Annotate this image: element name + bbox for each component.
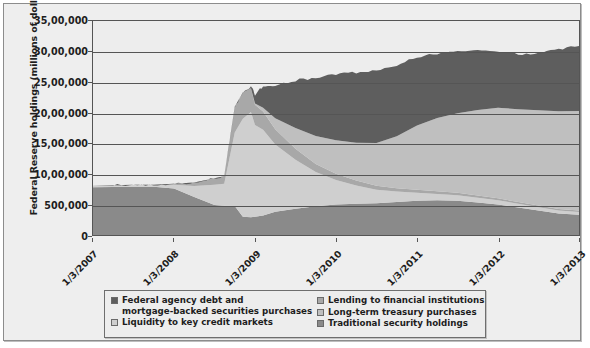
y-axis-tick-mark [88, 51, 92, 52]
y-axis-tick-mark [88, 174, 92, 175]
x-axis-tick-label: 1/3/2007 [0, 248, 100, 348]
grid-line [93, 175, 579, 176]
grid-line [93, 83, 579, 84]
legend-item-label-line2: mortgage-backed securities purchases [122, 306, 312, 317]
legend-item-label: Liquidity to key credit markets [122, 317, 273, 328]
legend-item-label: Traditional security holdings [328, 318, 468, 329]
x-axis-tick-mark [336, 238, 337, 242]
grid-line [93, 52, 579, 53]
legend-item-traditional-security-holdings[interactable]: Traditional security holdings [317, 318, 487, 329]
legend-item-long-term-treasury-purchases[interactable]: Long-term treasury purchases [317, 307, 487, 318]
legend-swatch-icon [317, 320, 324, 327]
x-axis-tick-mark [579, 238, 580, 242]
legend-swatch-icon [317, 297, 324, 304]
y-axis-tick-mark [88, 236, 92, 237]
x-axis-tick-mark [499, 238, 500, 242]
plot-area [92, 20, 580, 236]
legend-item-label: Lending to financial institutions [328, 295, 484, 306]
legend-item-federal-agency-debt-mbs[interactable]: Federal agency debt andmortgage-backed s… [111, 295, 317, 316]
chart-legend: Federal agency debt andmortgage-backed s… [104, 290, 486, 338]
legend-item-label: Federal agency debt andmortgage-backed s… [122, 295, 312, 316]
chart-frame: 0500,00010,00,00015,00,00020,00,00025,00… [3, 3, 581, 341]
legend-column-left: Federal agency debt andmortgage-backed s… [111, 295, 317, 337]
legend-item-label: Long-term treasury purchases [328, 307, 477, 318]
legend-item-lending-financial-institutions[interactable]: Lending to financial institutions [317, 295, 487, 306]
x-axis-tick-mark [92, 238, 93, 242]
legend-swatch-icon [111, 319, 118, 326]
grid-line [93, 206, 579, 207]
legend-swatch-icon [317, 309, 324, 316]
legend-swatch-icon [111, 297, 118, 304]
y-axis-tick-mark [88, 205, 92, 206]
y-axis-tick-labels: 0500,00010,00,00015,00,00020,00,00025,00… [14, 20, 88, 236]
y-axis-tick-mark [88, 82, 92, 83]
grid-line [93, 114, 579, 115]
y-axis-tick-mark [88, 20, 92, 21]
legend-item-liquidity-key-credit-markets[interactable]: Liquidity to key credit markets [111, 317, 317, 328]
x-axis-tick-mark [255, 238, 256, 242]
grid-line [93, 144, 579, 145]
x-axis-tick-labels: 1/3/20071/3/20081/3/20091/3/20101/3/2011… [92, 238, 580, 284]
x-axis-tick-mark [173, 238, 174, 242]
y-axis-tick-label: 0 [20, 231, 88, 242]
legend-column-right: Lending to financial institutionsLong-te… [317, 295, 487, 337]
y-axis-title: Federal Reserve holdings (millions of do… [28, 0, 39, 223]
stacked-area-series [93, 21, 579, 235]
x-axis-tick-mark [417, 238, 418, 242]
y-axis-tick-mark [88, 143, 92, 144]
y-axis-tick-mark [88, 113, 92, 114]
